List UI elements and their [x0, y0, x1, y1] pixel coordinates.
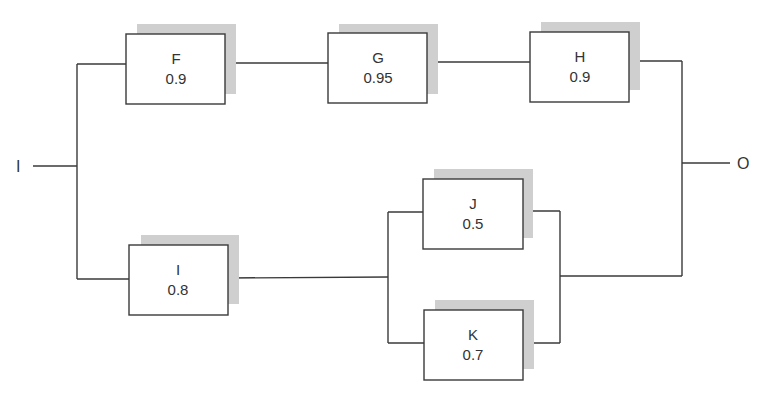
block-box — [328, 33, 427, 103]
block-reliability: 0.95 — [363, 69, 392, 86]
block-name: J — [469, 195, 477, 212]
block-k: K 0.7 — [424, 300, 534, 380]
block-name: G — [372, 49, 384, 66]
block-reliability: 0.8 — [168, 281, 189, 298]
block-name: K — [468, 326, 478, 343]
block-j: J 0.5 — [423, 169, 533, 249]
block-box — [424, 310, 523, 380]
input-label: I — [16, 158, 20, 175]
block-box — [423, 179, 523, 249]
block-reliability: 0.7 — [463, 346, 484, 363]
block-name: H — [575, 48, 586, 65]
block-f: F 0.9 — [126, 24, 236, 104]
block-name: I — [176, 261, 180, 278]
block-i: I 0.8 — [129, 235, 239, 315]
block-reliability: 0.5 — [463, 215, 484, 232]
block-reliability: 0.9 — [570, 68, 591, 85]
block-g: G 0.95 — [328, 24, 438, 103]
block-h: H 0.9 — [530, 22, 640, 102]
block-reliability: 0.9 — [166, 70, 187, 87]
output-label: O — [737, 155, 749, 172]
block-box — [126, 34, 225, 104]
block-box — [530, 32, 629, 102]
wire-i-to-jk-split — [228, 277, 388, 278]
block-name: F — [171, 50, 180, 67]
reliability-block-diagram: I O F 0.9 G 0.95 H 0.9 I 0.8 J 0.5 K — [0, 0, 772, 403]
block-box — [129, 245, 228, 315]
